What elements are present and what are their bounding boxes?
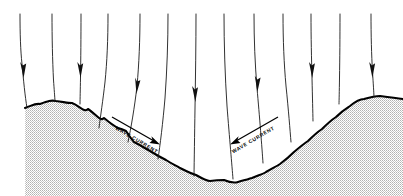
wave-orthogonal-8 <box>224 14 233 179</box>
wave-refraction-figure: WAVE CURRENT WAVE CURRENT <box>0 0 403 196</box>
wave-orthogonal-arrowhead-9 <box>255 76 261 92</box>
wave-orthogonal-5 <box>128 14 140 142</box>
wave-orthogonal-1 <box>20 14 27 108</box>
wave-current-right-group: WAVE CURRENT <box>230 117 278 154</box>
wave-orthogonal-4 <box>99 14 108 128</box>
wave-orthogonal-3 <box>80 14 81 104</box>
wave-orthogonal-2 <box>52 14 55 101</box>
wave-current-left-arrowhead <box>150 136 161 144</box>
wave-orthogonal-10 <box>283 14 291 142</box>
wave-refraction-canvas: WAVE CURRENT WAVE CURRENT <box>0 0 403 196</box>
wave-orthogonal-13 <box>371 14 374 97</box>
seabed-group <box>25 96 403 196</box>
wave-orthogonal-arrowhead-1 <box>20 62 26 78</box>
wave-orthogonal-12 <box>339 14 340 104</box>
wave-current-right-arrowhead <box>230 136 241 144</box>
wave-orthogonal-6 <box>158 14 168 159</box>
